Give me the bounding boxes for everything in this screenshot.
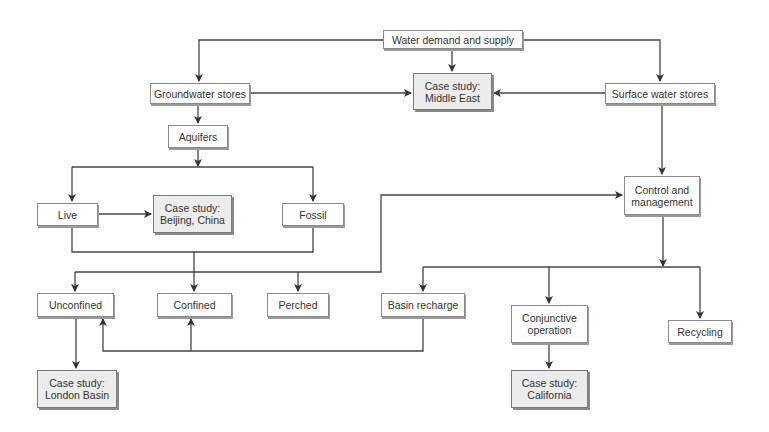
node-unconfined: Unconfined <box>37 293 114 317</box>
node-case-study-california: Case study: California <box>511 370 588 408</box>
node-aquifers: Aquifers <box>168 125 228 148</box>
node-perched: Perched <box>267 293 329 317</box>
connector-lines <box>0 0 769 432</box>
node-case-study-beijing: Case study: Beijing, China <box>153 195 232 233</box>
node-control-management: Control and management <box>624 176 700 215</box>
node-groundwater-stores: Groundwater stores <box>150 83 250 104</box>
node-confined: Confined <box>157 293 232 317</box>
node-fossil: Fossil <box>282 203 344 226</box>
node-surface-water-stores: Surface water stores <box>605 83 715 104</box>
edge-water-groundwater <box>199 40 383 81</box>
node-case-study-london-basin: Case study: London Basin <box>37 370 117 408</box>
node-case-study-middle-east: Case study: Middle East <box>413 73 492 110</box>
node-water-demand-supply: Water demand and supply <box>383 30 523 49</box>
edge-water-surface <box>523 40 660 81</box>
node-recycling: Recycling <box>668 320 732 343</box>
node-conjunctive-operation: Conjunctive operation <box>511 305 588 343</box>
node-live: Live <box>37 203 98 226</box>
node-basin-recharge: Basin recharge <box>381 293 465 317</box>
edge-basin-loop <box>103 317 423 351</box>
